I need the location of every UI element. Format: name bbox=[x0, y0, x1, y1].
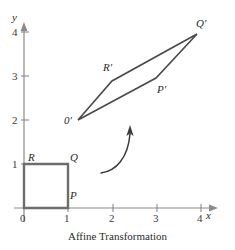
y-axis-ticks bbox=[21, 32, 29, 164]
y-tick-label-4: 4 bbox=[12, 27, 18, 38]
vertex-label-R-prime: R' bbox=[103, 62, 112, 73]
unit-square-shape bbox=[24, 164, 68, 208]
x-axis-label: x bbox=[206, 210, 211, 221]
transformation-arrow-group bbox=[101, 125, 134, 173]
vertex-label-Q-prime: Q' bbox=[196, 18, 206, 29]
transformed-parallelogram-shape bbox=[78, 34, 197, 120]
axes-group bbox=[14, 22, 218, 222]
x-tick-label-3: 3 bbox=[153, 213, 159, 224]
y-axis-arrowhead bbox=[21, 22, 28, 31]
figure-caption: Affine Transformation bbox=[0, 230, 235, 242]
y-tick-label-3: 3 bbox=[12, 71, 18, 82]
x-tick-label-2: 2 bbox=[109, 213, 115, 224]
x-tick-label-1: 1 bbox=[64, 213, 70, 224]
y-tick-label-2: 2 bbox=[12, 115, 18, 126]
vertex-label-R: R bbox=[28, 152, 35, 163]
x-tick-label-4: 4 bbox=[197, 213, 203, 224]
vertex-label-O-prime: 0' bbox=[64, 115, 72, 126]
y-axis-label: y bbox=[12, 12, 17, 23]
vertex-label-P-prime: P' bbox=[157, 84, 166, 95]
vertex-label-Q: Q bbox=[70, 152, 78, 163]
vertex-label-P: P bbox=[70, 190, 77, 201]
x-tick-label-0: 0 bbox=[20, 213, 26, 224]
transformation-arrow-curve bbox=[101, 134, 130, 173]
y-tick-label-1: 1 bbox=[12, 159, 18, 170]
affine-transformation-figure: x y 0 1 2 3 4 1 2 3 4 R Q P 0' P' Q' R' … bbox=[0, 0, 235, 250]
